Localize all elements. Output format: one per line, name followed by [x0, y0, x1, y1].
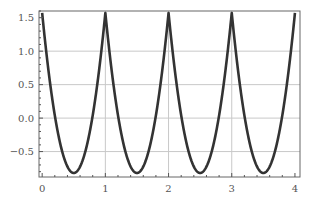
x-axis-labels: 01234 — [39, 183, 298, 194]
y-tick-label: 0.0 — [18, 113, 34, 124]
x-tick-label: 2 — [165, 183, 171, 194]
x-tick-label: 0 — [39, 183, 45, 194]
y-tick-label: 0.5 — [18, 79, 34, 90]
y-tick-label: 1.5 — [18, 12, 34, 23]
x-tick-label: 1 — [102, 183, 108, 194]
y-axis-labels: 1.51.00.50.0−0.5 — [10, 12, 34, 157]
line-chart: 01234 1.51.00.50.0−0.5 — [0, 0, 314, 199]
y-tick-label: 1.0 — [18, 46, 34, 57]
y-tick-label: −0.5 — [10, 146, 34, 157]
x-tick-label: 4 — [292, 183, 298, 194]
grid-lines — [39, 11, 300, 177]
x-tick-label: 3 — [229, 183, 235, 194]
plot-frame — [39, 11, 300, 177]
